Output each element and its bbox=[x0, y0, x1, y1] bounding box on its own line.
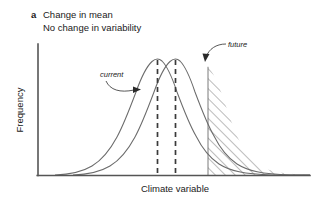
x-axis-label: Climate variable bbox=[141, 183, 209, 194]
future-tail-hatched-region bbox=[200, 55, 320, 180]
panel-title-line-2: No change in variability bbox=[43, 22, 141, 33]
y-axis-label: Frequency bbox=[14, 87, 25, 132]
current-annotation-arrowhead bbox=[133, 87, 141, 94]
future-annotation-leader bbox=[206, 44, 226, 57]
current-annotation-label: current bbox=[100, 70, 124, 79]
panel-letter: a bbox=[31, 9, 37, 20]
panel-title-line-1: Change in mean bbox=[43, 9, 113, 20]
climate-distribution-figure: a Change in mean No change in variabilit… bbox=[0, 0, 327, 202]
future-annotation-label: future bbox=[228, 40, 247, 49]
current-distribution-curve bbox=[55, 59, 310, 175]
figure-canvas: a Change in mean No change in variabilit… bbox=[0, 0, 327, 202]
future-annotation-arrowhead bbox=[203, 54, 210, 63]
current-annotation-leader bbox=[106, 81, 134, 91]
